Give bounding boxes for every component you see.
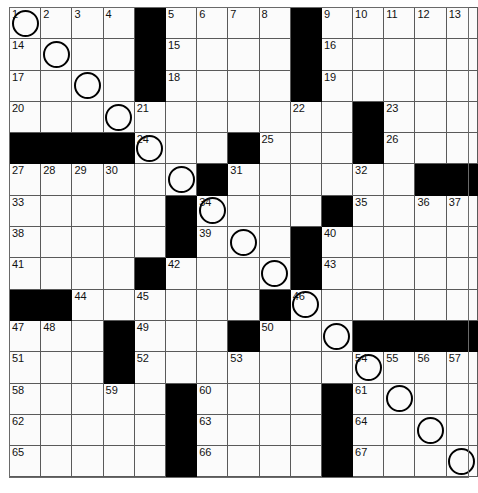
open-cell[interactable] — [165, 133, 196, 164]
open-cell[interactable] — [72, 414, 103, 445]
open-cell[interactable] — [415, 133, 446, 164]
open-cell[interactable] — [134, 227, 165, 258]
open-cell[interactable] — [415, 289, 446, 320]
open-cell[interactable] — [134, 195, 165, 226]
open-cell[interactable] — [165, 289, 196, 320]
open-cell[interactable] — [384, 289, 415, 320]
open-cell[interactable] — [384, 164, 415, 195]
open-cell[interactable]: 16 — [321, 39, 352, 70]
open-cell[interactable] — [228, 70, 259, 101]
open-cell[interactable] — [228, 446, 259, 477]
open-cell[interactable] — [72, 383, 103, 414]
open-cell[interactable] — [103, 70, 134, 101]
open-cell[interactable] — [290, 383, 321, 414]
open-cell[interactable] — [103, 258, 134, 289]
open-cell[interactable]: 56 — [415, 352, 446, 383]
open-cell[interactable] — [197, 320, 228, 351]
open-cell[interactable]: 64 — [353, 414, 384, 445]
open-cell[interactable] — [384, 195, 415, 226]
open-cell[interactable] — [41, 446, 72, 477]
open-cell[interactable]: 52 — [134, 352, 165, 383]
open-cell[interactable] — [384, 446, 415, 477]
circled-cell[interactable] — [72, 70, 103, 101]
open-cell[interactable]: 20 — [10, 101, 41, 132]
open-cell[interactable]: 61 — [353, 383, 384, 414]
open-cell[interactable] — [415, 383, 446, 414]
open-cell[interactable]: 65 — [10, 446, 41, 477]
open-cell[interactable]: 55 — [384, 352, 415, 383]
circled-cell[interactable]: 34 — [197, 195, 228, 226]
open-cell[interactable]: 44 — [72, 289, 103, 320]
open-cell[interactable]: 7 — [228, 8, 259, 39]
open-cell[interactable]: 50 — [259, 320, 290, 351]
open-cell[interactable] — [165, 352, 196, 383]
circled-cell[interactable] — [41, 39, 72, 70]
open-cell[interactable]: 42 — [165, 258, 196, 289]
open-cell[interactable] — [259, 446, 290, 477]
open-cell[interactable]: 19 — [321, 70, 352, 101]
circled-cell[interactable]: 54 — [353, 352, 384, 383]
open-cell[interactable] — [321, 101, 352, 132]
open-cell[interactable]: 60 — [197, 383, 228, 414]
open-cell[interactable] — [197, 133, 228, 164]
open-cell[interactable] — [103, 289, 134, 320]
open-cell[interactable]: 57 — [446, 352, 477, 383]
open-cell[interactable] — [290, 195, 321, 226]
open-cell[interactable] — [259, 70, 290, 101]
open-cell[interactable]: 66 — [197, 446, 228, 477]
open-cell[interactable] — [353, 70, 384, 101]
open-cell[interactable]: 11 — [384, 8, 415, 39]
open-cell[interactable] — [72, 258, 103, 289]
open-cell[interactable]: 41 — [10, 258, 41, 289]
open-cell[interactable] — [197, 258, 228, 289]
open-cell[interactable]: 22 — [290, 101, 321, 132]
open-cell[interactable] — [197, 289, 228, 320]
open-cell[interactable] — [415, 227, 446, 258]
open-cell[interactable] — [134, 164, 165, 195]
open-cell[interactable]: 28 — [41, 164, 72, 195]
open-cell[interactable] — [321, 352, 352, 383]
open-cell[interactable] — [415, 101, 446, 132]
open-cell[interactable] — [134, 446, 165, 477]
open-cell[interactable] — [384, 39, 415, 70]
open-cell[interactable] — [384, 70, 415, 101]
open-cell[interactable]: 35 — [353, 195, 384, 226]
open-cell[interactable]: 27 — [10, 164, 41, 195]
open-cell[interactable] — [103, 446, 134, 477]
open-cell[interactable]: 21 — [134, 101, 165, 132]
open-cell[interactable]: 43 — [321, 258, 352, 289]
open-cell[interactable]: 29 — [72, 164, 103, 195]
open-cell[interactable] — [72, 195, 103, 226]
open-cell[interactable]: 48 — [41, 320, 72, 351]
open-cell[interactable] — [259, 39, 290, 70]
open-cell[interactable]: 13 — [446, 8, 477, 39]
open-cell[interactable]: 59 — [103, 383, 134, 414]
open-cell[interactable] — [165, 101, 196, 132]
circled-cell[interactable] — [446, 446, 477, 477]
open-cell[interactable] — [41, 195, 72, 226]
open-cell[interactable] — [259, 164, 290, 195]
open-cell[interactable] — [446, 258, 477, 289]
open-cell[interactable] — [259, 414, 290, 445]
crossword-grid[interactable]: 1234567891011121314151617181920212223242… — [9, 7, 478, 477]
circled-cell[interactable] — [259, 258, 290, 289]
open-cell[interactable] — [72, 446, 103, 477]
open-cell[interactable] — [353, 39, 384, 70]
open-cell[interactable] — [228, 383, 259, 414]
open-cell[interactable] — [197, 352, 228, 383]
open-cell[interactable] — [41, 383, 72, 414]
open-cell[interactable] — [197, 70, 228, 101]
open-cell[interactable]: 26 — [384, 133, 415, 164]
open-cell[interactable] — [446, 101, 477, 132]
open-cell[interactable] — [103, 39, 134, 70]
open-cell[interactable] — [353, 289, 384, 320]
open-cell[interactable] — [321, 164, 352, 195]
open-cell[interactable]: 51 — [10, 352, 41, 383]
open-cell[interactable] — [321, 289, 352, 320]
open-cell[interactable] — [384, 227, 415, 258]
circled-cell[interactable] — [228, 227, 259, 258]
open-cell[interactable]: 31 — [228, 164, 259, 195]
open-cell[interactable] — [228, 289, 259, 320]
open-cell[interactable] — [134, 383, 165, 414]
circled-cell[interactable] — [415, 414, 446, 445]
